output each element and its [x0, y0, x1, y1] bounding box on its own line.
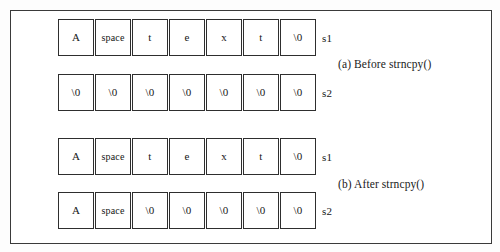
memory-row-s2-before: \0 \0 \0 \0 \0 \0 \0 — [58, 74, 316, 111]
memory-cell: \0 — [280, 138, 316, 175]
row-label-s1: s1 — [322, 138, 332, 175]
memory-cell: t — [132, 19, 168, 56]
memory-row-s2-after: A space \0 \0 \0 \0 \0 — [58, 192, 316, 229]
memory-cell: e — [169, 19, 205, 56]
memory-cell: x — [206, 138, 242, 175]
memory-cell: \0 — [95, 74, 131, 111]
row-label-s2: s2 — [322, 192, 332, 229]
memory-row-s1-after: A space t e x t \0 — [58, 138, 316, 175]
memory-cell: space — [95, 138, 131, 175]
memory-cell: \0 — [169, 192, 205, 229]
row-label-s1: s1 — [322, 19, 332, 56]
memory-cell: space — [95, 19, 131, 56]
caption-after-strncpy: (b) After strncpy() — [338, 178, 424, 190]
memory-cell: \0 — [206, 74, 242, 111]
memory-cell: t — [243, 138, 279, 175]
memory-cell: \0 — [280, 74, 316, 111]
memory-cell: \0 — [280, 19, 316, 56]
memory-cell: \0 — [206, 192, 242, 229]
memory-row-s1-before: A space t e x t \0 — [58, 19, 316, 56]
figure-container: A space t e x t \0 s1 \0 \0 \0 \0 \0 \0 … — [0, 0, 500, 252]
memory-cell: A — [58, 19, 94, 56]
memory-cell: t — [243, 19, 279, 56]
memory-cell: \0 — [132, 74, 168, 111]
memory-cell: x — [206, 19, 242, 56]
memory-cell: \0 — [243, 74, 279, 111]
memory-cell: \0 — [132, 192, 168, 229]
row-label-s2: s2 — [322, 74, 332, 111]
memory-cell: A — [58, 138, 94, 175]
caption-before-strncpy: (a) Before strncpy() — [338, 58, 431, 70]
memory-cell: A — [58, 192, 94, 229]
memory-cell: e — [169, 138, 205, 175]
memory-cell: \0 — [58, 74, 94, 111]
memory-cell: t — [132, 138, 168, 175]
memory-cell: \0 — [169, 74, 205, 111]
memory-cell: space — [95, 192, 131, 229]
memory-cell: \0 — [243, 192, 279, 229]
memory-cell: \0 — [280, 192, 316, 229]
